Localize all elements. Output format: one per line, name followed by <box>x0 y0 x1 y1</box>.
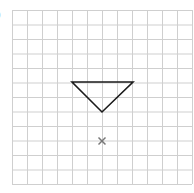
grid-lines <box>12 10 193 185</box>
square-grid-diagram <box>0 0 194 193</box>
